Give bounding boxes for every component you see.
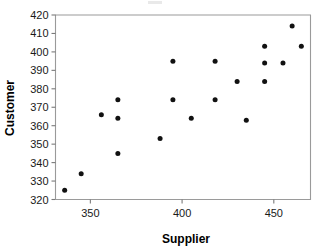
y-tick-label: 320 — [30, 194, 48, 206]
data-point — [280, 60, 285, 65]
y-axis-title: Customer — [3, 80, 17, 136]
x-axis-tick-marks — [90, 200, 273, 204]
data-point — [290, 24, 295, 29]
y-tick-label: 410 — [30, 27, 48, 39]
data-point — [189, 116, 194, 121]
data-point — [170, 59, 175, 64]
chart-canvas: 320330340350360370380390400410420 350400… — [0, 0, 319, 252]
x-tick-label: 400 — [173, 207, 191, 219]
data-point — [115, 151, 120, 156]
x-tick-label: 450 — [265, 207, 283, 219]
data-point — [99, 112, 104, 117]
y-axis-tick-labels: 320330340350360370380390400410420 — [30, 9, 48, 206]
y-tick-label: 330 — [30, 175, 48, 187]
data-point — [299, 44, 304, 49]
data-point — [115, 97, 120, 102]
plot-frame — [56, 15, 311, 200]
data-point — [170, 97, 175, 102]
x-axis-title: Supplier — [162, 232, 210, 246]
data-point — [115, 116, 120, 121]
y-tick-label: 340 — [30, 157, 48, 169]
data-point — [244, 118, 249, 123]
data-point — [262, 44, 267, 49]
data-point — [158, 136, 163, 141]
cropped-title-artifact — [148, 1, 162, 4]
x-tick-label: 350 — [81, 207, 99, 219]
data-point — [262, 60, 267, 65]
data-point — [79, 171, 84, 176]
scatter-plot-figure: 320330340350360370380390400410420 350400… — [0, 0, 319, 252]
x-axis-tick-labels: 350400450 — [81, 207, 283, 219]
data-point — [262, 79, 267, 84]
data-point — [235, 79, 240, 84]
y-tick-label: 370 — [30, 101, 48, 113]
y-axis-tick-marks — [52, 15, 56, 200]
data-point — [213, 59, 218, 64]
y-tick-label: 400 — [30, 46, 48, 58]
data-point — [213, 97, 218, 102]
y-tick-label: 350 — [30, 138, 48, 150]
y-tick-label: 380 — [30, 83, 48, 95]
data-points-layer — [62, 24, 304, 193]
data-point — [62, 188, 67, 193]
y-tick-label: 390 — [30, 64, 48, 76]
y-tick-label: 420 — [30, 9, 48, 21]
y-tick-label: 360 — [30, 120, 48, 132]
